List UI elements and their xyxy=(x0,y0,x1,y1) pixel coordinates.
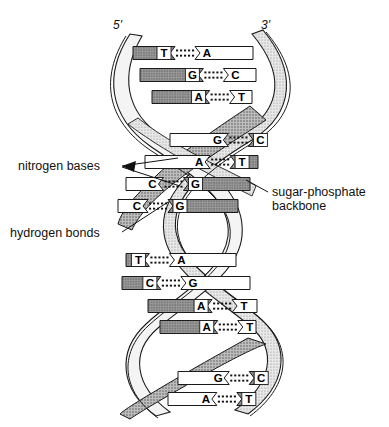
hydrogen-bond-dot xyxy=(154,262,156,264)
hydrogen-bond-dot xyxy=(208,77,210,79)
hydrogen-bond-dot xyxy=(149,208,151,210)
dna-helix-illustration: TAGCATGCATCGCGTACGATATGCAT xyxy=(0,0,389,427)
hydrogen-bond-dot xyxy=(242,380,244,382)
hydrogen-bond-dot xyxy=(227,324,229,326)
base-letter: C xyxy=(146,277,154,289)
hydrogen-bond-dot xyxy=(234,375,236,377)
hydrogen-bond-dot xyxy=(161,208,163,210)
hydrogen-bond-dot xyxy=(150,262,152,264)
hydrogen-bond-dot xyxy=(219,329,221,331)
base-pair: AT xyxy=(145,156,258,169)
base-letter: T xyxy=(135,254,142,266)
hydrogen-bond-dot xyxy=(231,324,233,326)
label-3-prime: 3' xyxy=(261,18,270,32)
hydrogen-bond-dot xyxy=(166,280,168,282)
hydrogen-bond-dot xyxy=(213,308,215,310)
hydrogen-bond-dot xyxy=(234,401,236,403)
hydrogen-bond-dot xyxy=(216,77,218,79)
hydrogen-bond-dot xyxy=(241,137,243,139)
hydrogen-bond-dot xyxy=(222,401,224,403)
hydrogen-bond-dot xyxy=(219,324,221,326)
hydrogen-bond-dot xyxy=(174,280,176,282)
hydrogen-bond-dot xyxy=(211,94,213,96)
annotation-arrow-heads xyxy=(122,161,136,172)
hydrogen-bond-dot xyxy=(241,142,243,144)
hydrogen-bond-dot xyxy=(235,329,237,331)
hydrogen-bond-dot xyxy=(223,99,225,101)
hydrogen-bond-dot xyxy=(178,285,180,287)
base-pair: CG xyxy=(122,277,250,290)
hydrogen-bond-dot xyxy=(226,401,228,403)
hydrogen-bond-dot xyxy=(168,186,170,188)
hydrogen-bond-dot xyxy=(225,303,227,305)
base-letter: T xyxy=(238,91,245,103)
hydrogen-bond-dot xyxy=(165,208,167,210)
hydrogen-bond-dot xyxy=(230,396,232,398)
hydrogen-bond-dot xyxy=(230,401,232,403)
hydrogen-bond-dot xyxy=(192,50,194,52)
hydrogen-bond-dot xyxy=(172,181,174,183)
hydrogen-bond-dot xyxy=(162,280,164,282)
base-bar-right xyxy=(223,69,256,82)
base-pair: CG xyxy=(126,178,250,191)
hydrogen-bond-dot xyxy=(223,329,225,331)
hydrogen-bond-dot xyxy=(184,50,186,52)
base-letter: T xyxy=(160,47,167,59)
hydrogen-bond-dot xyxy=(215,164,217,166)
hydrogen-bond-dot xyxy=(245,142,247,144)
base-letter: A xyxy=(203,321,211,333)
base-pair: GC xyxy=(170,134,267,147)
hydrogen-bond-dot xyxy=(223,94,225,96)
base-letter: C xyxy=(148,178,156,190)
base-letter: A xyxy=(197,300,205,312)
hydrogen-bond-dot xyxy=(226,396,228,398)
hydrogen-bond-dot xyxy=(212,72,214,74)
hydrogen-bond-dot xyxy=(223,159,225,161)
hydrogen-bond-dot xyxy=(235,324,237,326)
hydrogen-bond-dot xyxy=(176,55,178,57)
hydrogen-bond-dot xyxy=(219,94,221,96)
hydrogen-bond-dot xyxy=(227,164,229,166)
hydrogen-bond-dot xyxy=(237,142,239,144)
hydrogen-bond-dot xyxy=(245,137,247,139)
hydrogen-bond-dot xyxy=(221,303,223,305)
hydrogen-bond-dot xyxy=(161,203,163,205)
hydrogen-bond-dot xyxy=(188,50,190,52)
base-letter: A xyxy=(177,254,185,266)
hydrogen-bond-dot xyxy=(170,280,172,282)
base-letter: T xyxy=(245,393,252,405)
hydrogen-bond-dot xyxy=(180,55,182,57)
base-bar-left xyxy=(126,178,163,191)
base-letter: C xyxy=(133,200,141,212)
dna-diagram: TAGCATGCATCGCGTACGATATGCAT 5' 3' nitroge… xyxy=(0,0,389,427)
base-letter: A xyxy=(195,156,203,168)
hydrogen-bond-dot xyxy=(213,303,215,305)
hydrogen-bond-dot xyxy=(238,375,240,377)
hydrogen-bond-dot xyxy=(233,142,235,144)
hydrogen-bond-dot xyxy=(221,308,223,310)
base-letter: G xyxy=(176,200,185,212)
hydrogen-bond-dot xyxy=(227,94,229,96)
hydrogen-bond-dot xyxy=(227,99,229,101)
hydrogen-bond-dot xyxy=(211,99,213,101)
hydrogen-bond-dot xyxy=(184,55,186,57)
hydrogen-bond-dot xyxy=(215,159,217,161)
base-pair: GC xyxy=(140,69,256,82)
base-pair: TA xyxy=(126,254,236,267)
hydrogen-bond-dot xyxy=(162,285,164,287)
base-letter: T xyxy=(239,156,246,168)
hydrogen-bond-dot xyxy=(180,181,182,183)
hydrogen-bond-dot xyxy=(153,203,155,205)
hydrogen-bond-dot xyxy=(229,142,231,144)
hydrogen-bond-dot xyxy=(227,159,229,161)
hydrogen-bond-dot xyxy=(158,257,160,259)
base-pair: AT xyxy=(160,321,256,334)
base-letter: G xyxy=(214,372,223,384)
base-letter: A xyxy=(194,91,202,103)
hydrogen-bond-dot xyxy=(208,72,210,74)
hydrogen-bond-dot xyxy=(222,396,224,398)
annotation-sugar-phosphate-backbone-line1: sugar-phosphate xyxy=(272,185,366,199)
hydrogen-bond-dot xyxy=(170,285,172,287)
hydrogen-bond-dot xyxy=(225,308,227,310)
hydrogen-bond-dot xyxy=(204,72,206,74)
